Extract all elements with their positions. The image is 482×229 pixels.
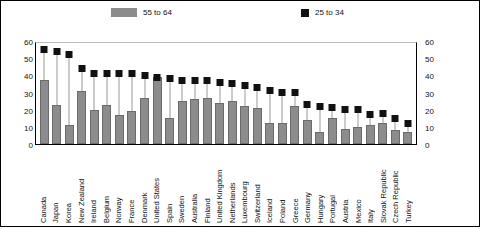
chart-column bbox=[276, 43, 289, 144]
chart-column bbox=[364, 43, 377, 144]
x-label-finland: Finland bbox=[201, 147, 214, 223]
y-tick-left-30: 30 bbox=[17, 89, 33, 98]
marker-25-to-34 bbox=[41, 46, 48, 53]
bar-55-to-64 bbox=[353, 127, 362, 144]
x-label-text: Japan bbox=[51, 147, 60, 223]
x-label-austria: Austria bbox=[339, 147, 352, 223]
chart-column bbox=[88, 43, 101, 144]
bar-55-to-64 bbox=[391, 130, 400, 144]
bar-55-to-64 bbox=[115, 115, 124, 144]
x-label-text: Luxembourg bbox=[240, 147, 249, 223]
x-label-text: Finland bbox=[203, 147, 212, 223]
chart-column bbox=[401, 43, 414, 144]
x-label-text: Portugal bbox=[328, 147, 337, 223]
y-tick-left-60: 60 bbox=[17, 38, 33, 47]
x-label-australia: Australia bbox=[188, 147, 201, 223]
bar-55-to-64 bbox=[203, 98, 212, 144]
x-label-text: Norway bbox=[114, 147, 123, 223]
legend-square-swatch-icon bbox=[301, 9, 309, 17]
y-axis-left: 6050403020100 bbox=[15, 42, 33, 145]
legend-item-55-to-64: 55 to 64 bbox=[111, 8, 172, 17]
y-tick-right-40: 40 bbox=[425, 72, 441, 81]
chart-column bbox=[239, 43, 252, 144]
marker-stem bbox=[282, 93, 283, 124]
x-label-sweden: Sweden bbox=[176, 147, 189, 223]
marker-25-to-34 bbox=[316, 103, 323, 110]
bar-55-to-64 bbox=[240, 106, 249, 144]
x-label-greece: Greece bbox=[289, 147, 302, 223]
marker-25-to-34 bbox=[103, 70, 110, 77]
chart-column bbox=[226, 43, 239, 144]
y-tick-left-50: 50 bbox=[17, 55, 33, 64]
x-label-text: Canada bbox=[39, 147, 48, 223]
chart-column bbox=[351, 43, 364, 144]
bar-55-to-64 bbox=[328, 118, 337, 144]
chart-column bbox=[188, 43, 201, 144]
marker-25-to-34 bbox=[166, 75, 173, 82]
marker-25-to-34 bbox=[266, 87, 273, 94]
x-label-poland: Poland bbox=[276, 147, 289, 223]
x-label-text: Netherlands bbox=[228, 147, 237, 223]
x-label-italy: Italy bbox=[364, 147, 377, 223]
marker-25-to-34 bbox=[392, 115, 399, 122]
bar-55-to-64 bbox=[366, 125, 375, 144]
bar-55-to-64 bbox=[341, 129, 350, 144]
x-label-ireland: Ireland bbox=[87, 147, 100, 223]
chart-column bbox=[176, 43, 189, 144]
bar-55-to-64 bbox=[215, 103, 224, 144]
x-label-text: United Kingdom bbox=[215, 147, 224, 223]
chart-column bbox=[138, 43, 151, 144]
chart-column bbox=[126, 43, 139, 144]
x-label-denmark: Denmark bbox=[138, 147, 151, 223]
bar-55-to-64 bbox=[190, 99, 199, 144]
marker-25-to-34 bbox=[191, 77, 198, 84]
y-tick-left-20: 20 bbox=[17, 106, 33, 115]
marker-stem bbox=[106, 74, 107, 105]
x-label-france: France bbox=[125, 147, 138, 223]
x-label-text: Slovak Republic bbox=[379, 147, 388, 223]
x-label-text: New Zealand bbox=[77, 147, 86, 223]
x-label-united-kingdom: United Kingdom bbox=[213, 147, 226, 223]
y-tick-left-40: 40 bbox=[17, 72, 33, 81]
marker-25-to-34 bbox=[128, 70, 135, 77]
chart-column bbox=[301, 43, 314, 144]
marker-25-to-34 bbox=[91, 70, 98, 77]
marker-25-to-34 bbox=[354, 106, 361, 113]
x-label-united-states: United States bbox=[150, 147, 163, 223]
bar-55-to-64 bbox=[178, 101, 187, 144]
marker-25-to-34 bbox=[78, 65, 85, 72]
bar-55-to-64 bbox=[403, 132, 412, 144]
bar-55-to-64 bbox=[165, 118, 174, 144]
chart-column bbox=[376, 43, 389, 144]
marker-25-to-34 bbox=[279, 89, 286, 96]
x-label-switzerland: Switzerland bbox=[251, 147, 264, 223]
x-label-canada: Canada bbox=[37, 147, 50, 223]
x-label-iceland: Iceland bbox=[264, 147, 277, 223]
x-label-text: Hungary bbox=[316, 147, 325, 223]
y-tick-right-50: 50 bbox=[425, 55, 441, 64]
marker-25-to-34 bbox=[329, 104, 336, 111]
bar-55-to-64 bbox=[52, 105, 61, 144]
bar-55-to-64 bbox=[127, 111, 136, 144]
x-label-text: Korea bbox=[64, 147, 73, 223]
y-tick-left-0: 0 bbox=[17, 141, 33, 150]
x-label-text: Iceland bbox=[265, 147, 274, 223]
x-label-text: Ireland bbox=[89, 147, 98, 223]
marker-stem bbox=[319, 106, 320, 132]
chart-column bbox=[38, 43, 51, 144]
x-label-text: Sweden bbox=[177, 147, 186, 223]
y-tick-right-60: 60 bbox=[425, 38, 441, 47]
x-label-text: Switzerland bbox=[253, 147, 262, 223]
x-label-text: Greece bbox=[291, 147, 300, 223]
chart-column bbox=[63, 43, 76, 144]
x-label-text: Poland bbox=[278, 147, 287, 223]
x-label-hungary: Hungary bbox=[314, 147, 327, 223]
x-label-text: Australia bbox=[190, 147, 199, 223]
x-label-spain: Spain bbox=[163, 147, 176, 223]
marker-stem bbox=[131, 74, 132, 112]
bars-and-markers bbox=[36, 43, 416, 144]
marker-25-to-34 bbox=[141, 72, 148, 79]
marker-25-to-34 bbox=[291, 89, 298, 96]
marker-stem bbox=[69, 55, 70, 125]
x-label-slovak-republic: Slovak Republic bbox=[377, 147, 390, 223]
